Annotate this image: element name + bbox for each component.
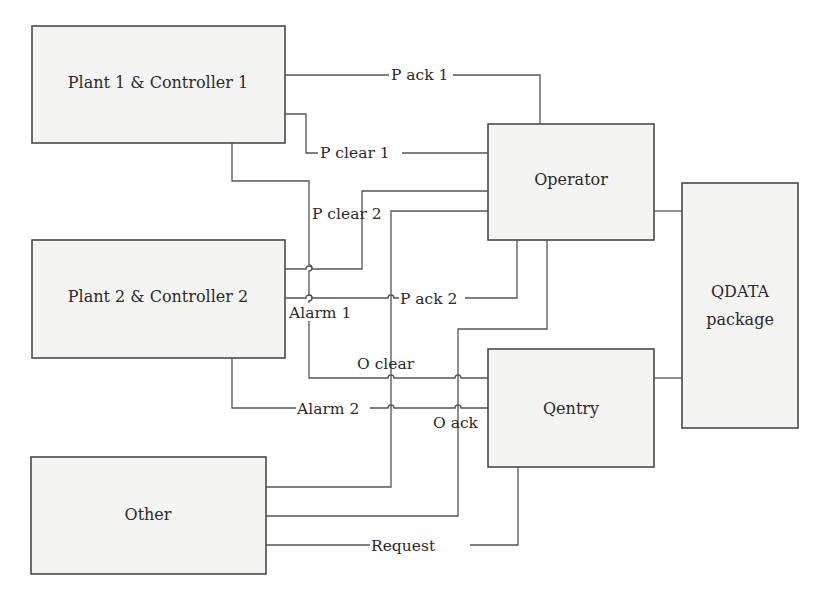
signal-labels: P ack 1 P clear 1 P clear 2 P ack 2 Alar… (288, 64, 479, 555)
block-plant-1: Plant 1 & Controller 1 (32, 26, 285, 143)
signal-label-alarm-1: Alarm 1 (288, 304, 351, 322)
signal-label-p-ack-1: P ack 1 (391, 66, 448, 84)
block-label-plant-1: Plant 1 & Controller 1 (68, 73, 248, 92)
block-diagram: P ack 1 P clear 1 P clear 2 P ack 2 Alar… (0, 0, 824, 601)
block-label-qentry: Qentry (543, 399, 599, 418)
block-qentry: Qentry (488, 349, 654, 467)
signal-label-p-ack-2: P ack 2 (400, 290, 457, 308)
block-qdata-package: QDATA package (682, 183, 798, 428)
signal-label-p-clear-1: P clear 1 (320, 144, 390, 162)
signal-label-o-ack: O ack (433, 414, 479, 432)
block-plant-2: Plant 2 & Controller 2 (32, 240, 285, 358)
wire-request (266, 467, 518, 545)
block-label-other: Other (125, 505, 172, 524)
block-label-package: package (706, 310, 774, 329)
block-label-qdata: QDATA (711, 282, 769, 301)
signal-label-p-clear-2: P clear 2 (312, 205, 382, 223)
block-label-operator: Operator (534, 170, 608, 189)
signal-label-o-clear: O clear (357, 355, 415, 373)
wire-p-clear-2 (285, 191, 488, 269)
signal-label-alarm-2: Alarm 2 (296, 400, 359, 418)
block-label-plant-2: Plant 2 & Controller 2 (68, 287, 248, 306)
wire-o-clear (266, 211, 488, 487)
signal-label-request: Request (371, 537, 436, 555)
block-other: Other (31, 457, 266, 574)
block-operator: Operator (488, 124, 654, 240)
